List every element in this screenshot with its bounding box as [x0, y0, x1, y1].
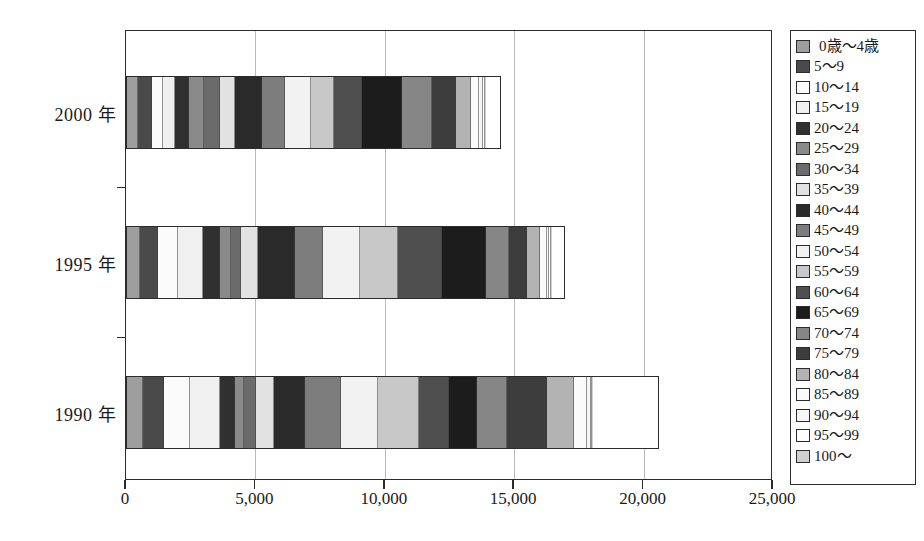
bar-segment: [274, 377, 305, 448]
bar-segment: [235, 77, 262, 148]
legend-swatch: [796, 142, 810, 155]
bar-segment: [442, 227, 486, 298]
legend-label: 25〜29: [814, 141, 859, 156]
bar-segment: [362, 77, 402, 148]
bar-segment: [471, 77, 479, 148]
legend-swatch: [796, 122, 810, 135]
legend-swatch: [796, 204, 810, 217]
legend-label: 60〜64: [814, 285, 859, 300]
legend-item: 20〜24: [796, 118, 912, 139]
bar-segment: [220, 377, 235, 448]
bar-segment: [204, 77, 220, 148]
x-axis-tick-mark: [512, 480, 514, 489]
legend-label: 20〜24: [814, 121, 859, 136]
legend-swatch: [796, 327, 810, 340]
bar-segment: [305, 377, 341, 448]
x-axis-tick-label: 15,000: [490, 489, 537, 509]
legend-swatch: [796, 286, 810, 299]
bar-segment: [419, 377, 449, 448]
legend-swatch: [796, 224, 810, 237]
bar-segment: [432, 77, 456, 148]
plot-area: [125, 30, 772, 480]
legend-swatch: [796, 40, 810, 53]
legend-swatch: [796, 306, 810, 319]
legend-item: 0歳〜4歳: [796, 36, 912, 57]
legend-label: 70〜74: [814, 326, 859, 341]
y-axis-tick-label: 2000 年: [55, 100, 117, 126]
legend-item: 55〜59: [796, 262, 912, 283]
legend-item: 45〜49: [796, 221, 912, 242]
legend-label: 50〜54: [814, 244, 859, 259]
bar-segment: [477, 377, 508, 448]
legend-swatch: [796, 409, 810, 422]
legend-swatch: [796, 429, 810, 442]
legend-label: 5〜9: [814, 59, 844, 74]
bar-segment: [311, 77, 334, 148]
bar-segment: [220, 77, 235, 148]
stacked-bar: [126, 376, 659, 449]
bar-segment: [485, 77, 486, 148]
legend-label: 0歳〜4歳: [819, 39, 879, 54]
legend-swatch: [796, 388, 810, 401]
legend-item: 25〜29: [796, 139, 912, 160]
bar-segment: [323, 227, 360, 298]
bar-segment: [138, 77, 152, 148]
x-axis-tick-mark: [642, 480, 644, 489]
legend-item: 15〜19: [796, 98, 912, 119]
legend-label: 40〜44: [814, 203, 859, 218]
legend-swatch: [796, 81, 810, 94]
bar-segment: [164, 377, 191, 448]
legend-label: 100〜: [814, 449, 852, 464]
legend-item: 50〜54: [796, 241, 912, 262]
legend-swatch: [796, 101, 810, 114]
bar-segment: [334, 77, 362, 148]
x-axis-tick-mark: [383, 480, 385, 489]
legend-label: 80〜84: [814, 367, 859, 382]
legend-swatch: [796, 450, 810, 463]
x-axis-tick-label: 5,000: [235, 489, 273, 509]
bar-segment: [527, 227, 539, 298]
legend-item: 95〜99: [796, 426, 912, 447]
bar-segment: [140, 227, 158, 298]
legend-label: 30〜34: [814, 162, 859, 177]
legend-label: 15〜19: [814, 100, 859, 115]
legend-label: 55〜59: [814, 264, 859, 279]
y-axis-labels: 2000 年1995 年1990 年: [0, 30, 116, 480]
stacked-bar: [126, 76, 501, 149]
legend-label: 45〜49: [814, 223, 859, 238]
legend-label: 35〜39: [814, 182, 859, 197]
bar-segment: [449, 377, 477, 448]
legend-swatch: [796, 163, 810, 176]
bar-segment: [152, 77, 163, 148]
bar-segment: [244, 377, 256, 448]
bar-segment: [360, 227, 399, 298]
x-axis-tick-mark: [771, 480, 773, 489]
bar-segment: [509, 227, 527, 298]
y-axis-tick-label: 1995 年: [55, 250, 117, 276]
bar-segment: [241, 227, 257, 298]
bar-segment: [592, 377, 593, 448]
bar-segment: [285, 77, 311, 148]
bar-segment: [398, 227, 442, 298]
bar-segment: [143, 377, 164, 448]
bar-segment: [235, 377, 244, 448]
legend-swatch: [796, 347, 810, 360]
x-axis-tick-label: 0: [121, 489, 130, 509]
legend-swatch: [796, 183, 810, 196]
legend-label: 85〜89: [814, 387, 859, 402]
x-axis-tick-label: 25,000: [749, 489, 796, 509]
bar-segment: [378, 377, 419, 448]
legend-label: 95〜99: [814, 428, 859, 443]
bar-segment: [258, 227, 295, 298]
bar-segment: [127, 377, 143, 448]
stacked-bar: [126, 226, 565, 299]
y-axis-tick-label: 1990 年: [55, 400, 117, 426]
legend-swatch: [796, 265, 810, 278]
x-axis-tick-label: 10,000: [360, 489, 407, 509]
bar-segment: [551, 227, 552, 298]
legend-item: 65〜69: [796, 303, 912, 324]
legend-swatch: [796, 245, 810, 258]
legend-label: 75〜79: [814, 346, 859, 361]
legend-item: 30〜34: [796, 159, 912, 180]
bar-segment: [203, 227, 219, 298]
